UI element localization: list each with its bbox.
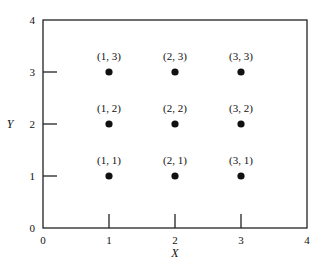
x-axis-label: X bbox=[170, 246, 179, 260]
y-tick-label: 1 bbox=[30, 170, 36, 182]
point-label: (3, 3) bbox=[229, 50, 253, 63]
data-points: (1, 1)(2, 1)(3, 1)(1, 2)(2, 2)(3, 2)(1, … bbox=[97, 50, 253, 180]
chart-canvas: 0123401234 (1, 1)(2, 1)(3, 1)(1, 2)(2, 2… bbox=[0, 0, 327, 273]
point-label: (3, 1) bbox=[229, 154, 253, 167]
y-axis-label: Y bbox=[7, 117, 15, 131]
data-point: (3, 2) bbox=[229, 102, 253, 128]
point-marker bbox=[171, 172, 178, 179]
data-point: (3, 1) bbox=[229, 154, 253, 180]
y-tick-label: 2 bbox=[30, 118, 36, 130]
data-point: (1, 3) bbox=[97, 50, 121, 76]
point-label: (3, 2) bbox=[229, 102, 253, 115]
point-marker bbox=[237, 68, 244, 75]
point-label: (2, 3) bbox=[163, 50, 187, 63]
data-point: (2, 3) bbox=[163, 50, 187, 76]
point-marker bbox=[237, 172, 244, 179]
x-tick-label: 2 bbox=[172, 234, 178, 246]
data-point: (1, 1) bbox=[97, 154, 121, 180]
x-tick-label: 0 bbox=[40, 234, 46, 246]
point-label: (1, 3) bbox=[97, 50, 121, 63]
point-marker bbox=[171, 68, 178, 75]
point-marker bbox=[237, 120, 244, 127]
data-point: (2, 1) bbox=[163, 154, 187, 180]
point-label: (2, 2) bbox=[163, 102, 187, 115]
y-tick-label: 4 bbox=[30, 14, 36, 26]
point-marker bbox=[105, 172, 112, 179]
x-tick-label: 4 bbox=[304, 234, 310, 246]
axis-ticks: 0123401234 bbox=[30, 14, 311, 246]
data-point: (2, 2) bbox=[163, 102, 187, 128]
point-marker bbox=[105, 68, 112, 75]
point-marker bbox=[105, 120, 112, 127]
y-tick-label: 3 bbox=[30, 66, 36, 78]
data-point: (3, 3) bbox=[229, 50, 253, 76]
point-label: (1, 1) bbox=[97, 154, 121, 167]
point-label: (1, 2) bbox=[97, 102, 121, 115]
data-point: (1, 2) bbox=[97, 102, 121, 128]
point-label: (2, 1) bbox=[163, 154, 187, 167]
y-tick-label: 0 bbox=[30, 222, 36, 234]
x-tick-label: 3 bbox=[238, 234, 244, 246]
scatter-chart: 0123401234 (1, 1)(2, 1)(3, 1)(1, 2)(2, 2… bbox=[0, 0, 327, 273]
point-marker bbox=[171, 120, 178, 127]
x-tick-label: 1 bbox=[106, 234, 112, 246]
